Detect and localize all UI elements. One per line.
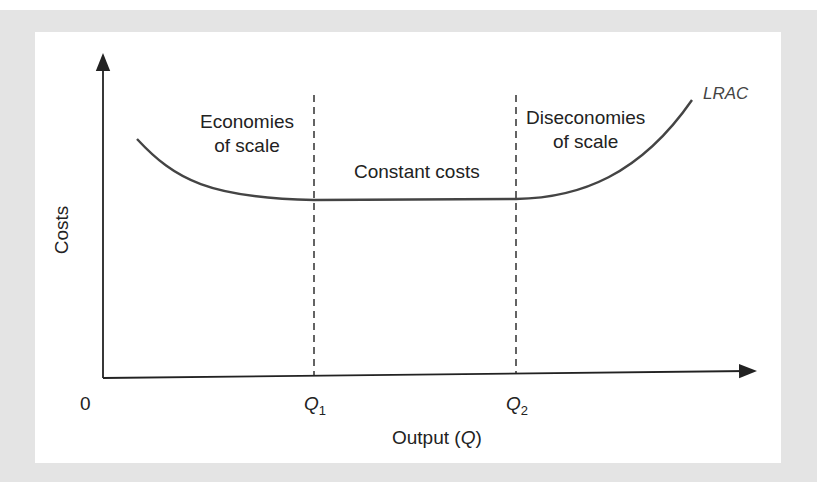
x-label-close: ) bbox=[475, 427, 481, 448]
x-label-text: Output ( bbox=[392, 427, 461, 448]
q1-sub: 1 bbox=[319, 403, 326, 418]
lrac-label: LRAC bbox=[703, 82, 748, 106]
diseconomies-line1: Diseconomies bbox=[526, 106, 645, 130]
origin-label: 0 bbox=[80, 392, 91, 416]
economies-label: Economies of scale bbox=[200, 110, 294, 158]
y-axis-label: Costs bbox=[50, 206, 74, 255]
q2-var: Q bbox=[506, 393, 521, 414]
lrac-diagram bbox=[0, 0, 817, 499]
x-axis-label: Output (Q) bbox=[392, 426, 482, 450]
economies-line2: of scale bbox=[200, 134, 294, 158]
constant-costs-label: Constant costs bbox=[354, 160, 480, 184]
diseconomies-label: Diseconomies of scale bbox=[526, 106, 645, 154]
q2-label: Q2 bbox=[506, 392, 528, 423]
x-label-var: Q bbox=[461, 427, 476, 448]
q2-sub: 2 bbox=[521, 403, 528, 418]
x-axis bbox=[103, 371, 748, 378]
q1-label: Q1 bbox=[304, 392, 326, 423]
q1-var: Q bbox=[304, 393, 319, 414]
diseconomies-line2: of scale bbox=[526, 130, 645, 154]
economies-line1: Economies bbox=[200, 110, 294, 134]
